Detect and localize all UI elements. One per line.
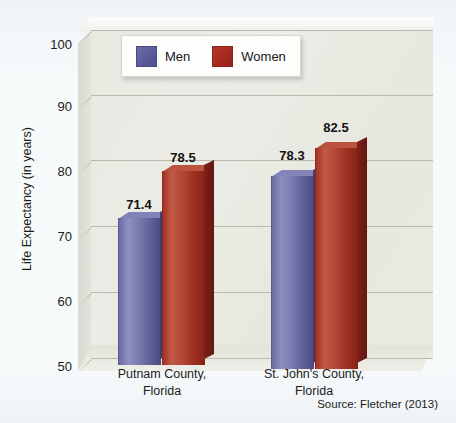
legend-swatch-women-icon [212, 46, 233, 67]
gridline-100 [91, 30, 433, 31]
category-label-putnam-line2: Florida [82, 383, 242, 400]
bar-stjohns-men [271, 176, 313, 369]
legend-item-men[interactable]: Men [136, 46, 190, 67]
source-note: Source: Fletcher (2013) [317, 398, 438, 410]
bar-putnam-men [118, 218, 160, 365]
bar-front-face [271, 176, 314, 369]
chart-figure: 100 90 80 70 60 50 Life Expectancy (in y… [0, 0, 456, 423]
bar-putnam-women [162, 171, 204, 365]
y-axis-ticks: 100 90 80 70 60 50 [0, 0, 72, 423]
bar-front-face [162, 171, 205, 365]
category-label-stjohns-line1: St. John's County, [234, 366, 394, 383]
bar-value-stjohns-men: 78.3 [261, 148, 323, 163]
y-tick-label-100: 100 [10, 37, 72, 52]
legend-item-women[interactable]: Women [212, 46, 286, 67]
bar-value-putnam-women: 78.5 [152, 150, 214, 165]
bar-value-putnam-men: 71.4 [108, 197, 170, 212]
bar-front-face [118, 218, 161, 365]
bar-stjohns-women [315, 148, 357, 369]
y-tick-label-50: 50 [10, 359, 72, 374]
legend-label-women: Women [241, 49, 286, 64]
legend-swatch-men-icon [136, 46, 157, 67]
bar-side-face [204, 160, 214, 359]
category-label-putnam: Putnam County, Florida [82, 366, 242, 400]
gridline-90 [91, 95, 433, 96]
bar-front-face [315, 148, 358, 369]
y-axis-title: Life Expectancy (in years) [20, 89, 34, 309]
category-label-stjohns: St. John's County, Florida [234, 366, 394, 400]
bar-side-face [357, 137, 367, 363]
category-label-putnam-line1: Putnam County, [82, 366, 242, 383]
plot-top-rim [78, 17, 434, 31]
plot-left-wall [78, 30, 92, 371]
bar-value-stjohns-women: 82.5 [305, 120, 367, 135]
chart-legend: Men Women [121, 35, 301, 77]
legend-label-men: Men [165, 49, 190, 64]
